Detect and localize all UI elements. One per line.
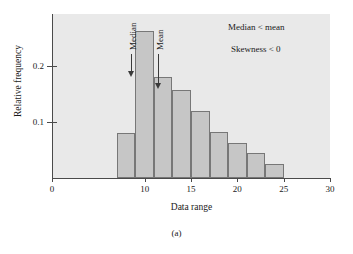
- x-tick-mark: [237, 178, 238, 182]
- histogram-bar: [172, 90, 191, 178]
- x-tick-label: 20: [225, 184, 249, 194]
- x-tick-label: 30: [318, 184, 342, 194]
- y-tick-label: 0.1: [33, 117, 44, 127]
- x-tick-mark: [284, 178, 285, 182]
- x-tick-mark: [52, 178, 53, 182]
- x-axis-label: Data range: [52, 202, 331, 212]
- histogram-bar: [265, 164, 284, 178]
- figure-caption: (a): [0, 228, 353, 238]
- median-arrow-head: [128, 71, 134, 77]
- histogram-bar: [247, 153, 266, 178]
- annotation-mean-label: Mean: [155, 30, 165, 51]
- annotation-skewness: Skewness < 0: [231, 44, 281, 54]
- histogram-bar: [154, 77, 173, 178]
- histogram-bar: [191, 111, 210, 178]
- x-tick-mark: [191, 178, 192, 182]
- median-arrow-line: [131, 54, 132, 72]
- y-tick-label: 0.2: [33, 61, 44, 71]
- histogram-bar: [210, 132, 229, 178]
- x-tick-mark: [330, 178, 331, 182]
- histogram-bar: [228, 143, 247, 178]
- x-tick-mark: [145, 178, 146, 182]
- figure-a: 0.2 0.1 Relative frequency 0 10 15 20 25…: [0, 0, 353, 254]
- mean-arrow-line: [158, 54, 159, 84]
- y-axis-line: [52, 14, 53, 179]
- y-tick-mark: [47, 122, 57, 123]
- y-tick-mark: [47, 66, 57, 67]
- histogram-bar: [117, 133, 136, 178]
- mean-arrow-head: [155, 83, 161, 89]
- annotation-median-lt-mean: Median < mean: [228, 22, 285, 32]
- y-axis-label: Relative frequency: [13, 34, 23, 128]
- annotation-median-label: Median: [128, 23, 138, 51]
- x-tick-label: 0: [40, 184, 64, 194]
- x-tick-label: 10: [133, 184, 157, 194]
- x-tick-label: 15: [179, 184, 203, 194]
- histogram-bar: [135, 31, 154, 178]
- x-tick-label: 25: [272, 184, 296, 194]
